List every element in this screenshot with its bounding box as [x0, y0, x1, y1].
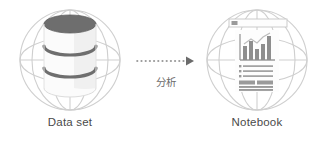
node-dataset[interactable]: Data set	[0, 0, 140, 150]
globe-database-icon	[18, 8, 122, 112]
node-notebook[interactable]: Notebook	[187, 0, 327, 150]
globe-notebook-icon	[205, 8, 309, 112]
node-dataset-label: Data set	[0, 116, 140, 128]
diagram-canvas: Data set 分析	[0, 0, 327, 150]
database-cylinder	[44, 15, 96, 97]
notebook-document	[229, 19, 287, 92]
node-notebook-label: Notebook	[187, 116, 327, 128]
